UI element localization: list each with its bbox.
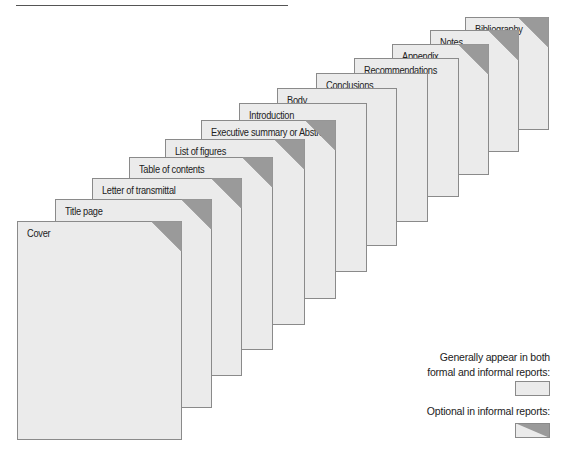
page-label: Title page xyxy=(65,205,103,217)
legend-general-text: Generally appear in both formal and info… xyxy=(427,350,550,380)
page-cover: Cover xyxy=(17,221,182,440)
legend-optional-line1: Optional in informal reports: xyxy=(427,404,550,419)
optional-corner-icon xyxy=(242,157,273,188)
optional-corner-icon xyxy=(211,178,242,209)
legend-swatch-optional xyxy=(515,423,550,438)
optional-corner-icon xyxy=(274,139,305,170)
page-label: List of figures xyxy=(175,145,226,157)
optional-corner-icon xyxy=(458,44,489,75)
top-rule xyxy=(16,5,288,6)
optional-corner-icon xyxy=(305,120,336,151)
legend-general-line2: formal and informal reports: xyxy=(427,365,550,380)
optional-corner-icon xyxy=(181,199,212,230)
page-label: Cover xyxy=(27,227,50,239)
page-label: Table of contents xyxy=(139,163,204,175)
optional-corner-icon xyxy=(488,30,519,61)
legend-optional-text: Optional in informal reports: xyxy=(427,404,550,419)
optional-corner-icon xyxy=(151,221,182,252)
optional-corner-icon xyxy=(515,423,550,438)
legend-general-line1: Generally appear in both xyxy=(427,350,550,365)
page-label: Letter of transmittal xyxy=(102,184,176,196)
optional-corner-icon xyxy=(518,17,549,48)
legend-swatch-general xyxy=(515,381,550,396)
